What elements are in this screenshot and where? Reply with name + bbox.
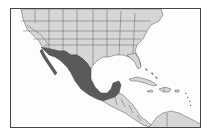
hispaniola (159, 87, 171, 92)
locator-map (11, 9, 201, 128)
cuba (129, 77, 157, 86)
south-america (147, 111, 201, 128)
map-frame (10, 8, 201, 128)
